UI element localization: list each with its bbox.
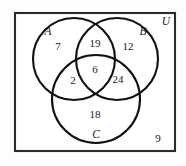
region-value-c-only: 18	[90, 108, 102, 120]
venn-diagram-canvas: U A B C 7 19 12 2 6 24 18 9	[0, 0, 186, 166]
set-label-c: C	[92, 128, 100, 140]
region-value-a-only: 7	[55, 40, 61, 52]
set-label-a: A	[43, 25, 52, 37]
region-value-ac-only: 2	[70, 74, 76, 86]
region-value-ab-only: 19	[90, 37, 102, 49]
region-value-b-only: 12	[123, 40, 134, 52]
region-value-outside: 9	[155, 132, 161, 144]
region-value-abc: 6	[92, 63, 98, 75]
venn-diagram-figure: U A B C 7 19 12 2 6 24 18 9	[0, 0, 186, 166]
set-label-u: U	[162, 15, 171, 27]
region-value-bc-only: 24	[113, 73, 125, 85]
set-label-b: B	[139, 25, 146, 37]
